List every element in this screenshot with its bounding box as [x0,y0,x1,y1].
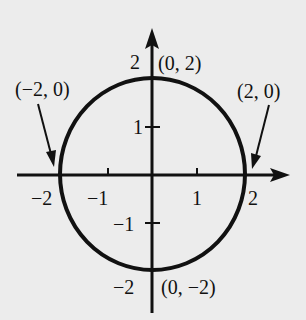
y-tick-label: 1 [133,116,143,138]
y-tick-label: 2 [130,51,140,73]
point-label-right: (2, 0) [237,80,280,103]
x-tick-label: −1 [87,187,108,209]
x-tick-label: 2 [248,187,258,209]
point-label-bottom: (0, −2) [161,276,216,299]
point-label-top: (0, 2) [158,52,201,75]
pointer-arrow-left-icon [38,104,56,167]
y-tick-label: −1 [113,213,134,235]
point-label-left: (−2, 0) [15,78,70,101]
y-tick-label: −2 [113,276,134,298]
x-tick-label: 1 [192,187,202,209]
pointer-arrow-right-icon [251,105,269,169]
circle-graph-figure: −2 −1 1 2 2 1 −1 −2 (0, 2) (0, −2) (−2, … [0,0,306,320]
x-tick-label: −2 [31,187,52,209]
